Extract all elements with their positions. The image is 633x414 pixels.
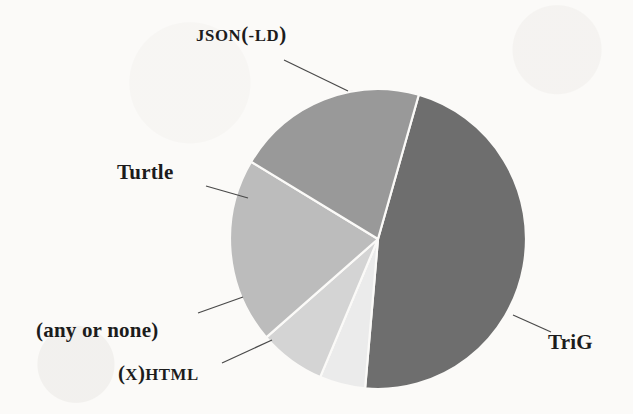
- pie-label-json-ld-paren-close: ): [279, 22, 286, 46]
- leader-line-json-ld: [284, 60, 348, 91]
- leader-line-xhtml: [222, 340, 272, 363]
- pie-label-xhtml: (X)HTML: [118, 361, 199, 386]
- leader-line-trig: [513, 315, 551, 332]
- pie-label-json-ld-paren-open: (: [241, 22, 248, 46]
- pie-label-any-or-none: (any or none): [36, 318, 158, 343]
- pie-slices-group: [230, 89, 526, 389]
- pie-chart-figure: JSON(-LD) Turtle (any or none) (X)HTML T…: [0, 0, 633, 414]
- pie-label-trig: TriG: [548, 330, 593, 355]
- leader-line-any-or-none: [198, 297, 243, 313]
- pie-label-json-ld: JSON(-LD): [196, 22, 286, 47]
- pie-label-json-ld-acronym: JSON: [196, 26, 241, 45]
- pie-label-xhtml-acronym-x: X: [125, 365, 138, 384]
- pie-label-json-ld-acronym-2: LD: [255, 26, 280, 45]
- pie-label-xhtml-acronym-html: HTML: [145, 365, 199, 384]
- pie-chart-svg: [0, 0, 633, 414]
- pie-label-turtle: Turtle: [117, 160, 173, 185]
